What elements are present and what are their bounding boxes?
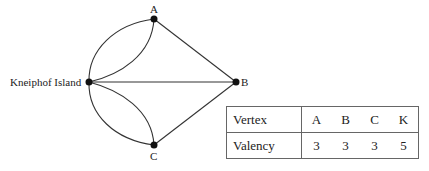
vertex-k: K — [389, 107, 419, 133]
table-row-valency: Valency 3 3 3 5 — [227, 133, 419, 159]
node-k — [86, 79, 93, 86]
edge-k-a-inner — [89, 19, 154, 82]
table-row-vertex: Vertex A B C K — [227, 107, 419, 133]
valency-table: Vertex A B C K Valency 3 3 3 5 — [226, 106, 419, 159]
vertex-b: B — [331, 107, 360, 133]
node-b — [233, 79, 240, 86]
node-label-kneiphof: Kneiphof Island — [10, 77, 81, 88]
valency-b: 3 — [331, 133, 360, 159]
edge-k-c-outer — [89, 82, 154, 145]
node-label-b: B — [241, 77, 248, 88]
edge-a-b — [154, 19, 236, 82]
vertex-a: A — [302, 107, 332, 133]
node-c — [151, 142, 158, 149]
header-valency: Valency — [227, 133, 302, 159]
edge-c-b — [154, 82, 236, 145]
vertex-c: C — [360, 107, 389, 133]
valency-a: 3 — [302, 133, 332, 159]
valency-k: 5 — [389, 133, 419, 159]
node-label-a: A — [150, 4, 158, 15]
header-vertex: Vertex — [227, 107, 302, 133]
valency-c: 3 — [360, 133, 389, 159]
node-a — [151, 16, 158, 23]
node-label-c: C — [150, 151, 157, 162]
edge-k-a-outer — [89, 19, 154, 82]
